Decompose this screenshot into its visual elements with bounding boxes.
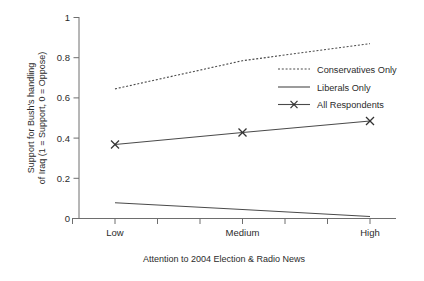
line-chart: 1 0.8 0.6 0.4 0.2 0 Low Medium High Atte… bbox=[0, 0, 424, 281]
legend-item-liberals-only: Liberals Only bbox=[278, 83, 371, 93]
legend-item-conservatives-only: Conservatives Only bbox=[278, 65, 397, 75]
y-tick-label-0-4: 0.4 bbox=[57, 133, 70, 144]
y-tick-label-0-2: 0.2 bbox=[57, 173, 70, 184]
y-tick-label-1: 1 bbox=[65, 12, 70, 23]
y-axis-title-line2: of Iraq (1 = Support, 0 = Oppose) bbox=[37, 52, 47, 185]
legend-label-conservatives-only: Conservatives Only bbox=[317, 65, 397, 75]
chart-legend: Conservatives Only Liberals Only All Res… bbox=[278, 65, 397, 111]
y-tick-label-0-6: 0.6 bbox=[57, 92, 70, 103]
x-category-high: High bbox=[360, 227, 380, 238]
legend-item-all-respondents: All Respondents bbox=[278, 100, 384, 110]
x-axis-title: Attention to 2004 Election & Radio News bbox=[143, 254, 306, 264]
y-tick-label-0: 0 bbox=[65, 213, 70, 224]
y-axis-title-line1: Support for Bush's handling bbox=[26, 63, 36, 173]
series-markers-all-respondents bbox=[111, 117, 374, 149]
chart-figure: 1 0.8 0.6 0.4 0.2 0 Low Medium High Atte… bbox=[0, 0, 424, 281]
x-axis-ticks bbox=[73, 219, 371, 225]
legend-label-liberals-only: Liberals Only bbox=[317, 83, 371, 93]
x-category-medium: Medium bbox=[226, 227, 260, 238]
y-tick-label-0-8: 0.8 bbox=[57, 52, 70, 63]
series-line-liberals-only bbox=[115, 203, 370, 217]
legend-label-all-respondents: All Respondents bbox=[317, 100, 384, 110]
y-axis-ticks bbox=[74, 18, 80, 219]
x-category-low: Low bbox=[106, 227, 124, 238]
